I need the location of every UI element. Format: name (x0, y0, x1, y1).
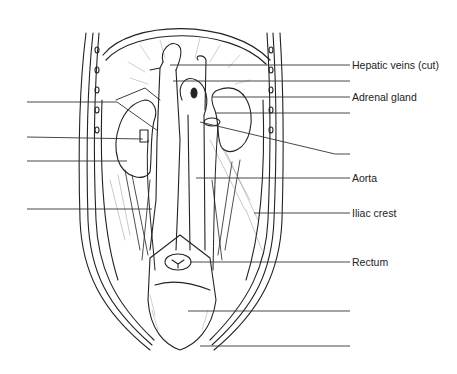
psoas-muscles (110, 140, 262, 260)
body-wall-left (79, 33, 154, 350)
inferior-vena-cava (150, 44, 181, 250)
label-rectum: Rectum (352, 256, 388, 268)
label-adrenal-gland: Adrenal gland (352, 91, 417, 103)
diaphragm (103, 29, 270, 84)
label-aorta: Aorta (352, 172, 377, 184)
label-iliac-crest: Iliac crest (352, 207, 396, 219)
kidney-left (116, 88, 160, 177)
anatomy-diagram (0, 0, 457, 374)
leader-lines (27, 65, 350, 346)
aorta (180, 56, 207, 250)
pelvis (148, 235, 216, 350)
ureters (147, 125, 218, 270)
label-hepatic-veins: Hepatic veins (cut) (352, 59, 439, 71)
